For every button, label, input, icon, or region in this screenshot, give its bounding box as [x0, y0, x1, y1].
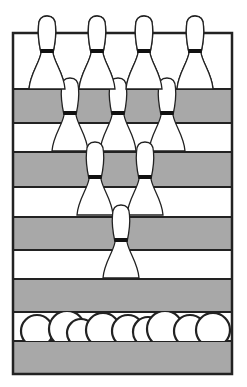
- gray-band: [13, 152, 232, 187]
- gray-band: [13, 279, 232, 312]
- pin-neck-stripe: [91, 49, 104, 53]
- pin-row-2: [52, 78, 185, 151]
- pin-neck-stripe: [139, 175, 152, 179]
- pin-neck-stripe: [138, 49, 151, 53]
- bowling-illustration: [0, 0, 247, 387]
- pin-neck-stripe: [89, 175, 102, 179]
- pin-neck-stripe: [115, 238, 128, 242]
- pin-neck-stripe: [161, 111, 174, 115]
- pin-neck-stripe: [64, 111, 77, 115]
- gray-band: [13, 341, 232, 374]
- pin-neck-stripe: [189, 49, 202, 53]
- pin-neck-stripe: [41, 49, 54, 53]
- pin-neck-stripe: [112, 111, 125, 115]
- bowling-art-canvas: [0, 0, 247, 387]
